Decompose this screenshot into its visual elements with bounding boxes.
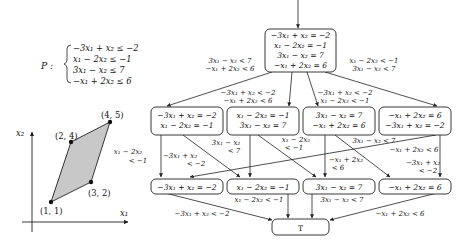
edge	[307, 72, 318, 106]
node-equation: 3x₁ − x₂ = 7	[316, 111, 363, 120]
edge-label: 3x₁ − x₂ < 7	[208, 57, 252, 65]
node-equation: −3x₁ + x₂ = −2	[157, 111, 217, 120]
bottom-edge-labels: −3x₁ + x₂ < −2 x₁ − 2x₂ < −1 3x₁ − x₂ < …	[175, 196, 425, 218]
edge-label: −x₁ + 2x₂ < 6	[224, 97, 273, 105]
vertex-label: (2, 4)	[55, 131, 78, 141]
edge-label: x₁ − 2x₂ < −1	[350, 57, 399, 65]
edge-label: < 6	[332, 164, 345, 172]
node-equation: −x₁ + 2x₂ = 6	[312, 121, 365, 130]
constraint-system: P : −3x₁ + x₂ ≤ −2 x₁ − 2x₂ ≤ −1 3x₁ − x…	[40, 43, 139, 86]
edge-label: < −1	[129, 157, 147, 165]
lattice-node-middle: −3x₁ + x₂ = −2 x₁ − 2x₂ = −1	[151, 107, 223, 135]
node-equation: x₁ − 2x₂ = −1	[236, 111, 289, 120]
x-axis-label: x₁	[120, 208, 128, 218]
vertex-point	[89, 180, 93, 184]
edge-label: −x₁ + 2x₂ < 6	[206, 65, 255, 73]
feasible-region-plot: x₁ x₂ (1, 1) (3, 2) (4, 5) (2, 4)	[16, 110, 128, 232]
lattice-node-middle: 3x₁ − x₂ = 7 −x₁ + 2x₂ = 6	[303, 107, 375, 135]
constraint-2: x₁ − 2x₂ ≤ −1	[73, 54, 132, 64]
constraint-4: −x₁ + 2x₂ ≤ 6	[73, 76, 132, 86]
edge-label: < −2	[187, 160, 206, 168]
vertex-point	[108, 120, 112, 124]
edge-label: 3x₁ − x₂	[212, 139, 240, 147]
edge-label: −x₁ + 2x₂	[329, 156, 363, 164]
lattice-node-middle: x₁ − 2x₂ = −1 3x₁ − x₂ = 7	[227, 107, 299, 135]
edge-label: x₁ − 2x₂ < −1	[321, 97, 370, 105]
node-equation: x₁ − 2x₂ = −1	[236, 183, 289, 192]
node-equation: −3x₁ + x₂ = −2	[157, 183, 217, 192]
constraint-1: −3x₁ + x₂ ≤ −2	[73, 43, 139, 53]
y-axis-label: x₂	[16, 128, 25, 138]
edge-label: −3x₁ + x₂ < −2	[318, 89, 373, 97]
constraint-3: 3x₁ − x₂ ≤ 7	[73, 65, 125, 75]
edge-label: 3x₁ − x₂ < 7	[352, 65, 396, 73]
edge	[289, 72, 292, 106]
node-equation: −x₁ + 2x₂ = 6	[388, 111, 441, 120]
edge-label: −3x₁ + x₂	[163, 152, 197, 160]
edge-label: −x₁ + 2x₂ < 6	[376, 210, 425, 218]
edge-label: x₁ − 2x₂ < −1	[235, 196, 284, 204]
lattice-node-middle: −x₁ + 2x₂ = 6 −3x₁ + x₂ = −2	[379, 107, 451, 135]
lattice-node-bottom: 3x₁ − x₂ = 7	[303, 179, 375, 194]
edge-label: < 7	[228, 147, 241, 155]
system-brace	[64, 45, 71, 83]
edge-label: −3x₁ + x₂ < −2	[221, 89, 276, 97]
diagram-canvas: P : −3x₁ + x₂ ≤ −2 x₁ − 2x₂ ≤ −1 3x₁ − x…	[0, 0, 465, 247]
vertex-label: (3, 2)	[88, 188, 111, 198]
vertex-point	[49, 200, 53, 204]
lattice-node-top: −3x₁ + x₂ = −2 x₁ − 2x₂ = −1 3x₁ − x₂ = …	[265, 29, 336, 72]
edge-label: x₁ − 2x₂	[114, 148, 142, 156]
node-equation: 3x₁ − x₂ = 7	[316, 183, 363, 192]
edge-label: < −1	[285, 144, 303, 152]
lattice-node-bottom: −3x₁ + x₂ = −2	[151, 179, 223, 194]
node-equation: x₁ − 2x₂ = −1	[160, 121, 213, 130]
vertex-label: (1, 1)	[40, 206, 63, 216]
node-equation: −3x₁ + x₂ = −2	[385, 121, 445, 130]
edge-label: x₁ − 2x₂	[282, 136, 310, 144]
edge-label: −x₁ + 2x₂ < 6	[390, 146, 439, 154]
node-equation: 3x₁ − x₂ = 7	[240, 121, 287, 130]
middle-edge-labels: x₁ − 2x₂ < −1 −3x₁ + x₂ < −2 3x₁ − x₂ < …	[114, 136, 440, 175]
edge-label: −3x₁ + x₂	[406, 159, 440, 167]
node-equation: −3x₁ + x₂ = −2	[271, 31, 331, 40]
node-equation: −x₁ + 2x₂ = 6	[388, 183, 441, 192]
edge-label: 3x₁ − x₂ < 7	[352, 137, 396, 145]
node-equation: x₁ − 2x₂ = −1	[274, 41, 327, 50]
vertex-label: (4, 5)	[101, 110, 124, 120]
node-equation: 3x₁ − x₂ = 7	[277, 51, 324, 60]
lattice-node-bottom: x₁ − 2x₂ = −1	[227, 179, 299, 194]
system-label: P :	[40, 60, 53, 71]
lattice-node-bottom: −x₁ + 2x₂ = 6	[379, 179, 451, 194]
lattice-node-T: T	[272, 219, 329, 235]
node-equation: −x₁ + 2x₂ = 6	[274, 61, 327, 70]
T-label: T	[298, 224, 303, 233]
edge-label: 3x₁ − x₂ < 7	[320, 196, 364, 204]
edge-label: −3x₁ + x₂ < −2	[175, 210, 230, 218]
edge-label: < −2	[419, 167, 438, 175]
